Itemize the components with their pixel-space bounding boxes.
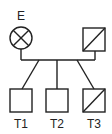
pedigree-diagram: E — [0, 0, 112, 134]
child-t3-square-affected — [83, 89, 105, 112]
child-t1-label: T1 — [9, 118, 33, 130]
descent-lines — [22, 60, 94, 89]
child-t2-label: T2 — [45, 118, 69, 130]
pedigree-lines — [0, 0, 112, 134]
child-t1-square — [10, 89, 32, 112]
child-t2-square — [46, 89, 68, 112]
mother-circle-crossed — [10, 27, 32, 49]
father-square-affected — [83, 28, 105, 51]
child-t3-label: T3 — [82, 118, 106, 130]
